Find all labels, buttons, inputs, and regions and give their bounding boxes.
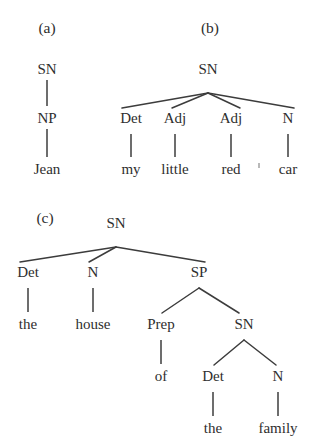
tree-node-b-sn: SN [198, 61, 217, 77]
tree-edge-b-sn-to-b-n [208, 93, 294, 108]
tree-edge-c-sn2-to-c-n2 [244, 340, 276, 365]
tree-leaf-b-my: my [121, 161, 141, 177]
tree-leaf-a-jean: Jean [34, 161, 61, 177]
scan-artifacts-layer [258, 163, 260, 168]
tree-edge-b-sn-to-b-det [122, 93, 208, 108]
tree-edge-b-sn-to-b-adj1 [172, 93, 208, 108]
tree-node-a-sn: SN [37, 61, 56, 77]
tree-leaf-c-of: of [155, 368, 168, 384]
tree-leaf-c-house: house [76, 316, 111, 332]
tree-node-c-det2: Det [202, 368, 224, 384]
tree-edge-c-sp-to-c-sn2 [199, 288, 239, 313]
tree-node-c-n: N [88, 264, 99, 280]
tree-node-c-det: Det [17, 264, 39, 280]
tree-leaf-b-little: little [161, 161, 189, 177]
branch-lines-layer [20, 80, 294, 416]
syntax-tree-figure: (a)(b)(c) SNNPJeanSNDetAdjAdjNmylittlere… [0, 0, 321, 446]
tree-canvas: (a)(b)(c) SNNPJeanSNDetAdjAdjNmylittlere… [0, 0, 321, 446]
tree-node-b-n: N [283, 110, 294, 126]
panel-label-c: (c) [36, 209, 53, 227]
tree-leaf-b-car: car [279, 161, 297, 177]
scan-speck-b-icon [258, 163, 260, 168]
tree-edge-c-sn2-to-c-det2 [214, 340, 244, 365]
panel-label-a: (a) [38, 19, 55, 37]
tree-node-c-n2: N [273, 368, 284, 384]
tree-node-labels-layer: SNNPJeanSNDetAdjAdjNmylittleredcarSNDetN… [17, 61, 298, 436]
tree-node-b-det: Det [120, 110, 142, 126]
tree-node-c-sn: SN [106, 215, 125, 231]
tree-edge-c-sn-to-c-sp [116, 247, 205, 262]
tree-leaf-c-the2: the [204, 420, 223, 436]
tree-node-c-prep: Prep [147, 316, 175, 332]
tree-node-c-sn2: SN [234, 316, 253, 332]
tree-leaf-c-the1: the [19, 316, 38, 332]
tree-node-a-np: NP [37, 110, 56, 126]
panel-label-b: (b) [201, 19, 219, 37]
tree-edge-c-sp-to-c-prep [162, 288, 199, 313]
tree-leaf-c-family: family [258, 420, 298, 436]
tree-node-b-adj2: Adj [220, 110, 243, 126]
tree-leaf-b-red: red [221, 161, 241, 177]
tree-node-c-sp: SP [191, 264, 208, 280]
tree-node-b-adj1: Adj [164, 110, 187, 126]
